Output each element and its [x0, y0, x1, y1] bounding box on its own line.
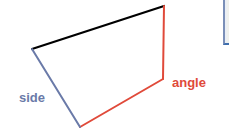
left-edge [32, 49, 80, 127]
side-label: side [19, 91, 45, 104]
angle-label: angle [172, 76, 206, 89]
quadrilateral-diagram [0, 0, 229, 133]
bottom-edge [80, 79, 163, 127]
top-edge [32, 6, 164, 49]
partial-panel-edge [223, 0, 229, 45]
right-edge [163, 6, 164, 79]
diagram-canvas: side angle [0, 0, 229, 133]
